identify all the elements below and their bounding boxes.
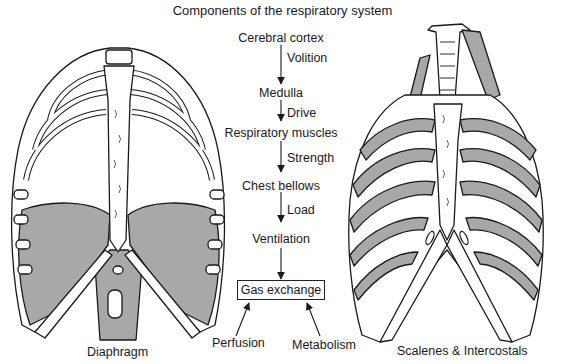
caption-diaphragm: Diaphragm bbox=[87, 345, 148, 359]
node-chest-bellows: Chest bellows bbox=[242, 179, 320, 193]
node-gas-exchange: Gas exchange bbox=[237, 280, 325, 300]
node-ventilation: Ventilation bbox=[252, 232, 310, 246]
edge-label-volition: Volition bbox=[287, 51, 327, 65]
input-metabolism: Metabolism bbox=[292, 338, 356, 352]
node-respiratory-muscles: Respiratory muscles bbox=[224, 126, 337, 140]
edge-label-strength: Strength bbox=[287, 151, 334, 165]
caption-scalenes-intercostals: Scalenes & Intercostals bbox=[397, 344, 528, 358]
node-cerebral-cortex: Cerebral cortex bbox=[238, 31, 323, 45]
node-medulla: Medulla bbox=[259, 86, 303, 100]
rib-cage-diaphragm-illustration bbox=[12, 48, 225, 340]
edge-label-load: Load bbox=[287, 203, 315, 217]
edge-label-drive: Drive bbox=[287, 106, 316, 120]
input-perfusion: Perfusion bbox=[212, 336, 265, 350]
rib-cage-intercostals-illustration bbox=[349, 24, 544, 342]
